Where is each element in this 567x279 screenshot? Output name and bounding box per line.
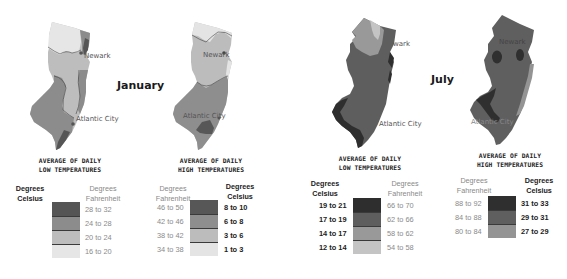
header-celsius: Degrees (218, 182, 262, 192)
legend-title-line2: LOW TEMPERATURES (25, 166, 115, 175)
swatch-jan-high-3 (190, 228, 218, 242)
city-label-newark: Newark (84, 52, 111, 60)
swatch-jan-low-3 (52, 230, 80, 244)
legend-title-line1: AVERAGE OF DAILY (166, 157, 256, 166)
swatch-jan-high-1 (190, 200, 218, 214)
row-fahrenheit: 84 to 88 (455, 213, 482, 222)
row-celsius: 27 to 29 (521, 227, 549, 236)
row-celsius: 1 to 3 (224, 245, 243, 254)
header-fahrenheit: Degrees (380, 179, 430, 189)
swatch-jul-low-4 (353, 240, 381, 254)
header-celsius-unit: Celsius (10, 194, 50, 204)
row-fahrenheit: 16 to 20 (85, 247, 112, 256)
row-fahrenheit: 38 to 42 (157, 231, 184, 240)
row-celsius: 6 to 8 (224, 217, 243, 226)
header-celsius-unit: Celsius (516, 186, 562, 196)
legend-title-line1: AVERAGE OF DAILY (325, 155, 415, 164)
row-celsius: 12 to 14 (319, 243, 347, 252)
header-fahrenheit: Degrees (148, 184, 198, 194)
swatch-jul-high-2 (488, 210, 516, 224)
swatch-jan-high-2 (190, 214, 218, 228)
swatch-jan-low-4 (52, 244, 80, 258)
swatch-jan-low-2 (52, 216, 80, 230)
row-fahrenheit: 42 to 46 (157, 217, 184, 226)
map-july-high: Newark Atlantic City (420, 0, 567, 155)
row-celsius: 31 to 33 (521, 199, 549, 208)
header-fahrenheit-unit: Fahrenheit (449, 186, 499, 196)
zone-warmest-newark (516, 49, 524, 61)
row-celsius: 3 to 6 (224, 231, 243, 240)
legend-title-line1: AVERAGE OF DAILY (25, 157, 115, 166)
map-july-low: wark Atlantic City (280, 0, 430, 155)
map-january-high: Newark Atlantic City (140, 0, 280, 155)
city-label-newark-partial: wark (393, 40, 411, 48)
row-fahrenheit: 28 to 32 (85, 205, 112, 214)
row-fahrenheit: 80 to 84 (455, 227, 482, 236)
row-fahrenheit: 24 to 28 (85, 219, 112, 228)
header-celsius-unit: Celsius (303, 189, 347, 199)
legend-title-line2: LOW TEMPERATURES (325, 164, 415, 173)
row-fahrenheit: 46 to 50 (157, 203, 184, 212)
legend-title-line2: HIGH TEMPERATURES (166, 166, 256, 175)
row-fahrenheit: 20 to 24 (85, 233, 112, 242)
row-fahrenheit: 34 to 38 (157, 245, 184, 254)
row-fahrenheit: 66 to 70 (387, 201, 414, 210)
header-celsius: Degrees (303, 179, 347, 189)
row-celsius: 14 to 17 (319, 229, 347, 238)
row-fahrenheit: 88 to 92 (455, 199, 482, 208)
swatch-jul-high-3 (488, 224, 516, 238)
legend-title-line2: HIGH TEMPERATURES (465, 161, 555, 170)
header-celsius: Degrees (10, 184, 50, 194)
swatch-jul-low-3 (353, 226, 381, 240)
header-fahrenheit-unit: Fahrenheit (380, 189, 430, 199)
swatch-jan-low-1 (52, 202, 80, 216)
city-label-atlantic-city: Atlantic City (76, 115, 119, 123)
city-label-newark: Newark (203, 51, 230, 59)
swatch-jul-low-1 (353, 198, 381, 212)
header-fahrenheit-unit: Fahrenheit (78, 194, 128, 204)
zone-warmest-west (492, 51, 502, 64)
row-celsius: 19 to 21 (319, 201, 347, 210)
swatch-jul-high-1 (488, 196, 516, 210)
header-celsius-unit: Celsius (218, 192, 262, 202)
swatch-jan-high-4 (190, 242, 218, 256)
row-fahrenheit: 58 to 62 (387, 229, 414, 238)
header-fahrenheit: Degrees (78, 184, 128, 194)
header-fahrenheit: Degrees (449, 176, 499, 186)
row-celsius: 17 to 19 (319, 215, 347, 224)
row-fahrenheit: 62 to 66 (387, 215, 414, 224)
row-celsius: 8 to 10 (224, 203, 247, 212)
header-celsius: Degrees (516, 176, 562, 186)
city-label-atlantic-city: Atlantic City (183, 112, 226, 120)
row-fahrenheit: 54 to 58 (387, 243, 414, 252)
legend-title-line1: AVERAGE OF DAILY (465, 152, 555, 161)
city-label-atlantic-city: Atlantic City (379, 120, 422, 128)
swatch-jul-low-2 (353, 212, 381, 226)
map-january-low: Newark Atlantic City (0, 0, 140, 155)
city-label-newark: Newark (499, 38, 526, 46)
city-label-atlantic-city: Atlantic City (471, 118, 514, 126)
row-celsius: 29 to 31 (521, 213, 549, 222)
